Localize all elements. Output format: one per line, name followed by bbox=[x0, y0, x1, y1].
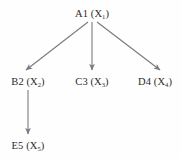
node-d4: D4 (X4) bbox=[138, 76, 172, 87]
node-d4-variable: (X4) bbox=[154, 76, 172, 87]
node-a1-variable: (X1) bbox=[91, 8, 109, 19]
node-b2-subscript: 2 bbox=[38, 81, 41, 88]
node-b2-variable: (X2) bbox=[27, 76, 45, 87]
node-c3-name: C3 bbox=[75, 76, 87, 87]
node-b2-name: B2 bbox=[11, 76, 23, 87]
node-a1-name: A1 bbox=[75, 8, 88, 19]
node-c3-subscript: 3 bbox=[102, 81, 105, 88]
node-b2: B2 (X2) bbox=[11, 76, 44, 87]
node-a1: A1 (X1) bbox=[75, 8, 109, 19]
node-e5-subscript: 5 bbox=[38, 145, 41, 152]
node-d4-subscript: 4 bbox=[165, 81, 168, 88]
node-d4-name: D4 bbox=[138, 76, 151, 87]
node-e5-name: E5 bbox=[12, 140, 24, 151]
node-c3: C3 (X3) bbox=[75, 76, 108, 87]
edge-a1-b2 bbox=[26, 22, 88, 70]
node-a1-subscript: 1 bbox=[102, 13, 105, 20]
node-e5: E5 (X5) bbox=[12, 140, 45, 151]
node-e5-variable: (X5) bbox=[26, 140, 44, 151]
node-c3-variable: (X3) bbox=[91, 76, 109, 87]
edge-a1-d4 bbox=[97, 22, 160, 70]
hierarchy-diagram: A1 (X1) B2 (X2) C3 (X3) D4 (X4) E5 (X5) bbox=[0, 0, 181, 159]
